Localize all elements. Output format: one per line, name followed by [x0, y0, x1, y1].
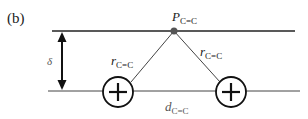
- r-left-bond-line: [131, 31, 174, 82]
- panel-label: (b): [7, 11, 25, 26]
- r-left-label: rC=C: [111, 54, 133, 70]
- point-p-label: PC=C: [172, 10, 197, 26]
- delta-label: δ: [47, 56, 52, 67]
- r-right-label: rC=C: [200, 45, 222, 61]
- arrow-down-icon: [58, 80, 67, 90]
- charge-right: [216, 77, 246, 107]
- charge-left: [103, 77, 133, 107]
- arrow-up-icon: [58, 32, 67, 42]
- distance-label: dC=C: [165, 100, 189, 116]
- point-p-marker: [171, 28, 178, 35]
